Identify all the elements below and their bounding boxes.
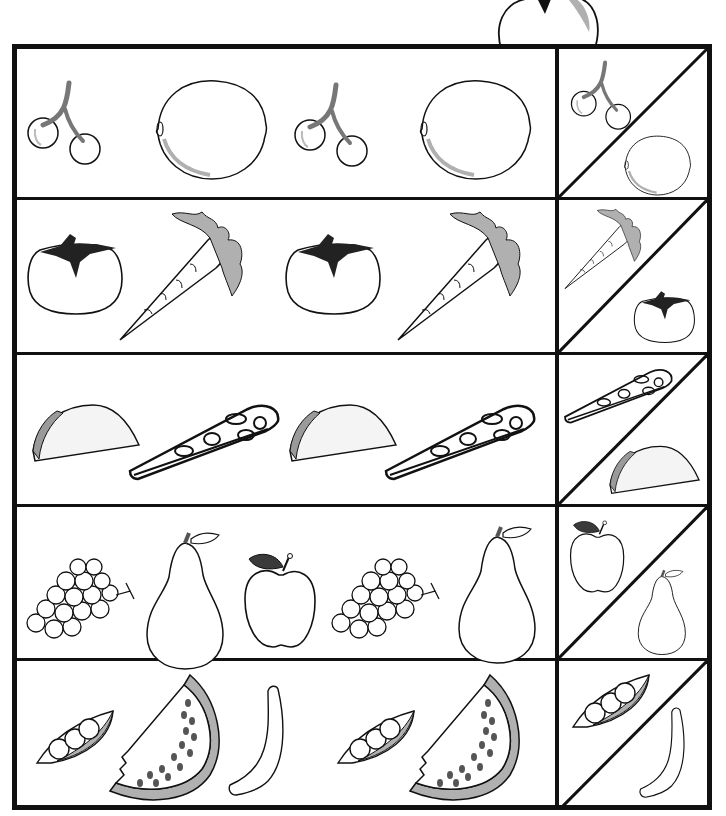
cherries-icon xyxy=(292,83,372,173)
pizza-choice-icon[interactable] xyxy=(565,365,673,425)
answer-cell-1[interactable] xyxy=(559,49,707,197)
grapes-icon xyxy=(26,553,138,639)
answer-cell-2[interactable] xyxy=(559,200,707,352)
pear-icon xyxy=(145,531,225,671)
banana-icon xyxy=(228,685,292,799)
pattern-row-4 xyxy=(17,507,555,658)
pea-pod-icon xyxy=(338,711,418,767)
answer-cell-4[interactable] xyxy=(559,507,707,658)
carrot-icon xyxy=(398,210,524,344)
apple-choice-icon[interactable] xyxy=(569,519,627,595)
worksheet-frame: Pattern sequence worksheet - what comes … xyxy=(12,44,712,810)
apple-icon xyxy=(243,551,319,651)
pizza-slice-icon xyxy=(386,399,536,483)
grapes-icon xyxy=(331,553,443,639)
taco-icon xyxy=(27,401,143,465)
answer-cell-3[interactable] xyxy=(559,355,707,504)
carrot-icon xyxy=(120,210,246,344)
pattern-row-2 xyxy=(17,200,555,352)
lemon-icon xyxy=(418,79,534,181)
cherries-choice-icon[interactable] xyxy=(569,61,635,135)
pattern-row-3 xyxy=(17,355,555,504)
lemon-choice-icon[interactable] xyxy=(623,135,693,196)
pea-pod-icon xyxy=(37,711,117,767)
carrot-choice-icon[interactable] xyxy=(565,208,643,291)
taco-choice-icon[interactable] xyxy=(605,443,702,497)
pattern-row-5 xyxy=(17,661,555,810)
tomato-icon xyxy=(284,232,384,318)
pear-choice-icon[interactable] xyxy=(637,569,687,656)
tomato-icon xyxy=(26,232,126,318)
lemon-icon xyxy=(154,79,270,181)
cherries-icon xyxy=(25,81,105,171)
banana-choice-icon[interactable] xyxy=(639,707,691,800)
pear-icon xyxy=(457,525,537,665)
pizza-slice-icon xyxy=(130,399,280,483)
tomato-choice-icon[interactable] xyxy=(633,290,697,345)
answer-cell-5[interactable] xyxy=(559,661,707,810)
watermelon-slice-icon xyxy=(110,675,230,809)
pattern-row-1: Pattern sequence worksheet - what comes … xyxy=(17,49,555,197)
taco-icon xyxy=(284,401,400,465)
watermelon-slice-icon xyxy=(410,675,530,809)
